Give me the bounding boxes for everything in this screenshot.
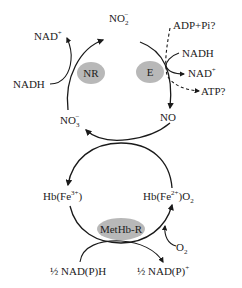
e-adp-pi-label: ADP+Pi? (173, 19, 215, 31)
nitrate-label: NO3− (60, 113, 80, 129)
arrow-no-to-nitrate (86, 123, 170, 140)
e-nadh-label: NADH (182, 47, 214, 59)
methemoglobin-label: Hb(Fe3+) (43, 189, 83, 203)
e-nad-plus-label: NAD+ (188, 66, 216, 79)
nadp-plus-label: ½ NAD(P)+ (137, 264, 189, 278)
arrow-nadh-to-nad-plus-nr (50, 38, 71, 84)
nr-enzyme-label: NR (83, 67, 99, 79)
top-cycle: NO2− NO NO3− NR E NAD+ NADH ADP+Pi? NADH… (13, 11, 226, 140)
nr-nad-plus-label: NAD+ (34, 29, 62, 42)
nitric-oxide-label: NO (160, 111, 176, 123)
e-atp-label: ATP? (201, 85, 226, 97)
nr-nadh-label: NADH (13, 78, 45, 90)
nitrite-label: NO2− (109, 11, 129, 27)
nadph-label: ½ NAD(P)H (50, 265, 106, 278)
arrow-adp-to-atp-dashed (166, 28, 199, 91)
arrow-oxygen-in (165, 226, 176, 246)
nitrate-nitrite-hemoglobin-cycle-diagram: NO2− NO NO3− NR E NAD+ NADH ADP+Pi? NADH… (0, 0, 242, 288)
e-enzyme-label: E (147, 66, 154, 78)
oxygen-label: O2 (176, 241, 188, 256)
arrow-nadph-to-nadp-plus (80, 241, 163, 262)
oxyhemoglobin-label: Hb(Fe2+)O2 (143, 189, 194, 205)
methb-reductase-label: MetHb-R (100, 223, 143, 235)
arrow-to-methemoglobin (68, 143, 172, 188)
bottom-cycle: MetHb-R Hb(Fe3+) Hb(Fe2+)O2 O2 ½ NAD(P)H… (43, 143, 194, 278)
